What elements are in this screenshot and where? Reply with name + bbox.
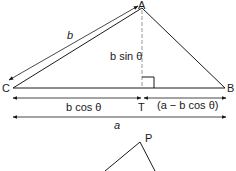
right-angle-marker	[142, 77, 154, 88]
angle-p-figure	[105, 142, 155, 171]
base-right-label: (a − b cos θ)	[157, 100, 218, 111]
vertex-a-label: A	[138, 0, 145, 11]
side-ab	[142, 8, 225, 88]
side-b-label: b	[67, 30, 73, 41]
base-total-label: a	[114, 120, 120, 131]
vertex-b-label: B	[227, 83, 234, 94]
side-ca	[13, 8, 142, 88]
base-left-label: b cos θ	[66, 102, 101, 113]
triangle-diagram	[0, 0, 236, 171]
height-label: b sin θ	[110, 51, 142, 62]
vertex-t-label: T	[138, 102, 145, 113]
vertex-c-label: C	[2, 83, 10, 94]
vertex-p-label: P	[145, 133, 152, 144]
arrow-side-b	[9, 6, 138, 80]
